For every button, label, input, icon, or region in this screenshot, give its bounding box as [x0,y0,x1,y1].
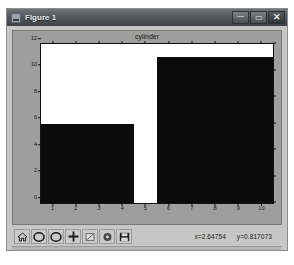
x-tick-label: 6 [167,203,170,212]
x-tick-mark-top [52,41,53,44]
back-arrow-icon[interactable] [31,229,47,244]
close-icon: ✕ [269,12,284,23]
figure-window-icon [11,13,21,23]
forward-arrow-icon[interactable] [48,229,64,244]
y-tick-mark-right [273,122,276,123]
window-title-bar[interactable]: Figure 1 — ▭ ✕ [7,9,287,26]
y-tick-mark-right [273,202,276,203]
y-tick-mark-right [273,149,276,150]
y-tick-mark-right [273,43,276,44]
x-tick-label: 9 [237,203,240,212]
pan-icon[interactable] [65,229,81,244]
x-tick-label: 4 [121,203,124,212]
x-tick-label: 3 [97,203,100,212]
y-tick-mark-right [273,175,276,176]
x-tick-label: 8 [213,203,216,212]
y-tick-label: 12 [31,36,41,42]
plot-title: cylinder [13,33,281,40]
maximize-button[interactable]: ▭ [250,11,267,24]
configure-subplots-icon[interactable] [99,229,115,244]
figure-canvas[interactable]: cylinder 02468101212345678910 [12,30,282,225]
bar-4 [41,124,134,204]
x-tick-mark-top [238,41,239,44]
x-tick-label: 2 [74,203,77,212]
x-tick-mark-top [122,41,123,44]
y-tick-label: 2 [34,168,41,174]
bar-8 [157,57,273,203]
x-tick-label: 7 [190,203,193,212]
coordinate-x: x=2.64754 [194,233,225,240]
save-icon[interactable] [116,229,132,244]
y-tick-label: 0 [34,195,41,201]
minimize-button[interactable]: — [232,11,249,24]
x-tick-mark-top [75,41,76,44]
y-tick-label: 8 [34,89,41,95]
window-title: Figure 1 [21,13,231,22]
x-tick-label: 1 [51,203,54,212]
x-tick-mark-top [168,41,169,44]
x-tick-label: 10 [258,203,264,212]
x-tick-mark-top [215,41,216,44]
status-line [12,246,282,250]
minimize-icon: — [233,12,248,23]
x-tick-mark-top [99,41,100,44]
figure-window: Figure 1 — ▭ ✕ cylinder 0246810121234567… [6,8,288,251]
y-tick-label: 6 [34,115,41,121]
x-tick-mark-top [191,41,192,44]
y-tick-label: 10 [31,62,41,68]
navigation-toolbar: x=2.64754 y=0.817073 [12,227,282,246]
y-tick-label: 4 [34,142,41,148]
home-icon[interactable] [14,229,30,244]
x-tick-label: 5 [144,203,147,212]
maximize-icon: ▭ [251,12,266,23]
coordinate-y: y=0.817073 [237,233,272,240]
y-tick-mark-right [273,69,276,70]
figure-body: cylinder 02468101212345678910 [7,26,287,250]
close-button[interactable]: ✕ [268,11,285,24]
x-tick-mark-top [261,41,262,44]
y-tick-mark-right [273,96,276,97]
x-tick-mark-top [145,41,146,44]
coordinate-readout: x=2.64754 y=0.817073 [194,233,280,240]
plot-axes[interactable]: 02468101212345678910 [40,43,274,204]
zoom-rect-icon[interactable] [82,229,98,244]
